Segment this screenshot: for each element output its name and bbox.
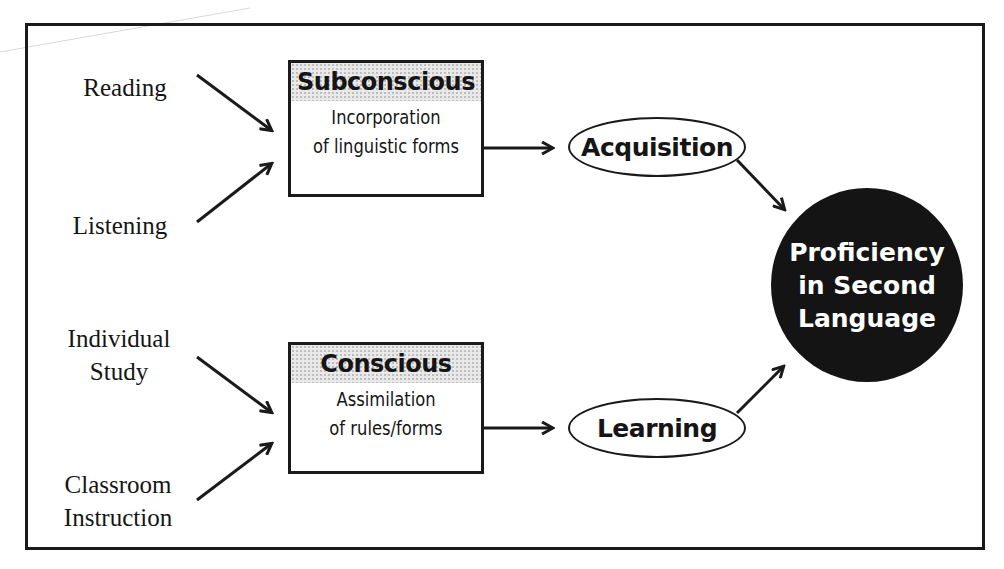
arrow-learning-to-proficiency bbox=[737, 367, 783, 413]
arrow-reading-to-subconscious bbox=[197, 75, 271, 130]
arrow-classroom-to-conscious bbox=[197, 444, 271, 500]
arrow-individual-study-to-conscious bbox=[197, 357, 271, 412]
arrow-listening-to-subconscious bbox=[197, 164, 271, 222]
arrow-acquisition-to-proficiency bbox=[737, 160, 784, 209]
arrows-layer bbox=[0, 0, 1004, 569]
